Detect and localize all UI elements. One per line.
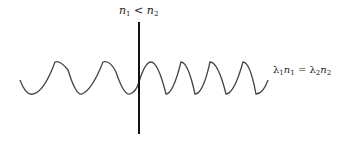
wave-medium-1	[20, 62, 139, 95]
top-label: n1 < n2	[119, 4, 158, 18]
right-label: λ1n1 = λ2n2	[273, 64, 331, 77]
wave-medium-2	[139, 62, 268, 94]
